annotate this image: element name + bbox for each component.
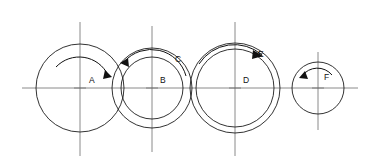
label-a: A: [89, 75, 95, 85]
station-d-group: D E: [190, 22, 280, 156]
rotation-arrowhead-a: [103, 70, 112, 79]
label-d: D: [243, 75, 249, 85]
rotation-arc-a: [56, 57, 108, 75]
label-c: C: [175, 54, 181, 64]
rotation-arrowhead-f: [299, 71, 308, 79]
label-f: F: [324, 72, 329, 82]
label-e: E: [258, 49, 264, 59]
circles-centerline-diagram: A B C D E: [0, 0, 374, 168]
station-a-group: A: [36, 22, 124, 156]
label-b: B: [160, 75, 166, 85]
diagram-canvas: A B C D E: [0, 0, 374, 168]
station-f-group: F: [292, 52, 344, 130]
